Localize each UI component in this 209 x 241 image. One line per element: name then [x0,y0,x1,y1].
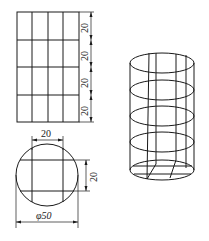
dim-row-4: 20 [79,106,90,116]
row-dimension-chain: 20 20 20 20 [79,12,94,122]
dim-side-height: 20 [88,172,99,182]
dim-diameter: φ50 [36,210,52,221]
top-width-dimension: 20 [32,128,63,150]
technical-drawing: 20 20 20 20 20 20 φ50 [0,0,209,241]
dim-row-1: 20 [79,23,90,33]
dim-top-width: 20 [41,128,51,139]
grid-view [17,12,79,122]
circle-view [16,144,78,206]
dim-row-2: 20 [79,51,90,61]
diameter-dimension: φ50 [16,175,78,228]
dim-row-3: 20 [79,78,90,88]
cylinder-view [130,53,194,180]
